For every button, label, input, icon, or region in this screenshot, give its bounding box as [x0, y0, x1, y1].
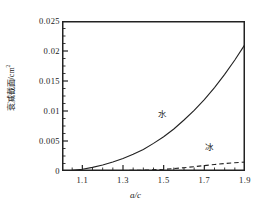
y-tick-label: 0.01 — [16, 107, 60, 116]
x-axis-title: a/c — [0, 190, 271, 200]
series-line-water — [62, 44, 245, 171]
series-annotation-water: 水 — [158, 110, 167, 119]
y-tick-label: 0.015 — [16, 77, 60, 86]
plot-area — [62, 21, 245, 171]
plot-frame — [63, 22, 245, 171]
series-annotation-ice: 冰 — [205, 143, 214, 152]
y-tick-label: 0.025 — [16, 17, 60, 26]
chart-figure: 衰减截面/cm2 00.0050.010.0150.020.025 水 冰 1.… — [0, 0, 271, 211]
plot-svg — [62, 21, 245, 171]
y-tick-label: 0 — [16, 167, 60, 176]
x-tick-label: 1.5 — [158, 176, 170, 185]
y-axis-title-exponent: 2 — [5, 65, 11, 68]
x-tick-label: 1.7 — [198, 176, 210, 185]
x-tick-label: 1.1 — [76, 176, 88, 185]
y-tick-label: 0.005 — [16, 137, 60, 146]
x-tick-label: 1.3 — [117, 176, 129, 185]
y-tick-label: 0.02 — [16, 47, 60, 56]
y-axis-title: 衰减截面/cm2 — [2, 46, 14, 130]
axis-tick-marks — [63, 21, 245, 171]
x-axis-tick-labels: 1.11.31.51.71.9 — [0, 176, 271, 188]
x-tick-label: 1.9 — [239, 176, 251, 185]
